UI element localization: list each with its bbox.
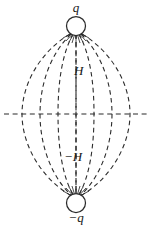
height-upper-label: H: [74, 64, 83, 77]
field-line-diagram: [0, 0, 152, 228]
field-line-1: [22, 34, 70, 195]
positive-charge-label: q: [0, 1, 152, 14]
negative-charge-label: −q: [0, 211, 152, 224]
field-line-7: [82, 34, 130, 195]
dipole-figure: q H −H −q: [0, 0, 152, 228]
height-lower-label: −H: [64, 150, 82, 163]
positive-charge-circle: [67, 17, 86, 36]
